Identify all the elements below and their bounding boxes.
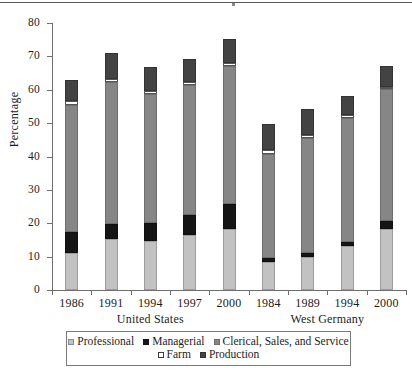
x-tick-2 [131, 290, 132, 295]
legend-swatch-clerical-icon [214, 339, 220, 345]
x-tick-9 [406, 290, 407, 295]
bar-segment-clerical-1984-5[interactable] [262, 154, 275, 257]
page-top-rule [0, 2, 412, 3]
stacked-bar-chart-figure: Percentage 01020304050607080 19861991199… [0, 0, 412, 370]
bar-segment-clerical-1994-7[interactable] [341, 118, 354, 242]
bar-segment-professional-2000-4[interactable] [223, 229, 236, 290]
bar-segment-professional-2000-8[interactable] [380, 229, 393, 290]
bar-segment-clerical-1986-0[interactable] [65, 105, 78, 232]
y-tick-label-30: 30 [18, 184, 40, 196]
legend-label-production: Production [209, 348, 259, 361]
bar-segment-professional-1991-1[interactable] [105, 239, 118, 290]
bar-segment-farm-2000-8[interactable] [380, 87, 393, 89]
bar-1991-1[interactable] [105, 23, 118, 290]
bar-segment-farm-2000-4[interactable] [223, 63, 236, 66]
legend-label-managerial: Managerial [152, 335, 204, 348]
bar-segment-clerical-1997-3[interactable] [183, 85, 196, 215]
bar-segment-managerial-1991-1[interactable] [105, 224, 118, 239]
y-tick-label-20: 20 [18, 217, 40, 229]
y-tick-label-50: 50 [18, 117, 40, 129]
bar-segment-managerial-1994-7[interactable] [341, 242, 354, 246]
x-tick-5 [249, 290, 250, 295]
legend-label-professional: Professional [77, 335, 134, 348]
bar-segment-managerial-1997-3[interactable] [183, 215, 196, 235]
legend-item-production: Production [200, 348, 259, 361]
x-axis-line [52, 290, 406, 291]
bar-segment-professional-1994-2[interactable] [144, 241, 157, 290]
bar-segment-production-1991-1[interactable] [105, 53, 118, 79]
bar-segment-managerial-1986-0[interactable] [65, 232, 78, 253]
bar-1994-2[interactable] [144, 23, 157, 290]
bar-segment-production-2000-4[interactable] [223, 39, 236, 63]
y-tick-label-70: 70 [18, 50, 40, 62]
x-tick-4 [209, 290, 210, 295]
bar-segment-production-1994-7[interactable] [341, 96, 354, 115]
bar-segment-farm-1986-0[interactable] [65, 101, 78, 105]
bar-1989-6[interactable] [301, 23, 314, 290]
x-tick-0 [52, 290, 53, 295]
y-tick-label-10: 10 [18, 251, 40, 263]
bar-segment-farm-1994-2[interactable] [144, 91, 157, 95]
y-tick-label-80: 80 [18, 17, 40, 29]
legend-item-clerical: Clerical, Sales, and Service [214, 335, 349, 348]
legend-swatch-managerial-icon [143, 339, 149, 345]
bar-segment-production-1989-6[interactable] [301, 109, 314, 135]
bar-segment-production-1997-3[interactable] [183, 59, 196, 82]
bar-segment-managerial-1994-2[interactable] [144, 223, 157, 241]
group-label-west-germany: West Germany [262, 312, 392, 327]
bar-segment-production-1986-0[interactable] [65, 80, 78, 101]
bar-segment-professional-1997-3[interactable] [183, 235, 196, 290]
legend-item-managerial: Managerial [143, 335, 204, 348]
bar-segment-clerical-2000-8[interactable] [380, 89, 393, 220]
bar-1994-7[interactable] [341, 23, 354, 290]
legend-label-farm: Farm [167, 348, 191, 361]
y-tick-label-0: 0 [18, 284, 40, 296]
group-label-united-states: United States [85, 312, 215, 327]
legend-item-professional: Professional [68, 335, 134, 348]
plot-area [52, 23, 406, 290]
bar-segment-managerial-1984-5[interactable] [262, 258, 275, 262]
page-top-rule-mark [232, 3, 235, 6]
legend-swatch-production-icon [200, 352, 206, 358]
bar-segment-production-1994-2[interactable] [144, 67, 157, 90]
bar-segment-clerical-1991-1[interactable] [105, 82, 118, 224]
bar-segment-farm-1984-5[interactable] [262, 150, 275, 154]
x-tick-7 [327, 290, 328, 295]
chart-legend: Professional Managerial Clerical, Sales,… [66, 331, 351, 366]
legend-item-farm: Farm [158, 348, 191, 361]
y-tick-label-60: 60 [18, 84, 40, 96]
y-tick-label-40: 40 [18, 151, 40, 163]
bar-segment-clerical-1994-2[interactable] [144, 94, 157, 222]
bar-segment-professional-1984-5[interactable] [262, 262, 275, 290]
legend-row-primary: Professional Managerial Clerical, Sales,… [71, 335, 346, 348]
bar-2000-4[interactable] [223, 23, 236, 290]
bar-segment-managerial-1989-6[interactable] [301, 253, 314, 257]
bar-2000-8[interactable] [380, 23, 393, 290]
bar-segment-farm-1991-1[interactable] [105, 79, 118, 83]
bar-segment-production-2000-8[interactable] [380, 66, 393, 87]
bar-segment-farm-1997-3[interactable] [183, 82, 196, 85]
x-tick-1 [91, 290, 92, 295]
bar-1997-3[interactable] [183, 23, 196, 290]
legend-swatch-professional-icon [68, 339, 74, 345]
bar-1986-0[interactable] [65, 23, 78, 290]
bar-segment-managerial-2000-8[interactable] [380, 221, 393, 230]
legend-swatch-farm-icon [158, 352, 164, 358]
bar-segment-clerical-2000-4[interactable] [223, 66, 236, 204]
legend-label-clerical: Clerical, Sales, and Service [223, 335, 349, 348]
legend-row-secondary: Farm Production [71, 348, 346, 361]
bar-segment-farm-1994-7[interactable] [341, 115, 354, 118]
x-tick-6 [288, 290, 289, 295]
bar-segment-professional-1986-0[interactable] [65, 253, 78, 290]
bar-segment-managerial-2000-4[interactable] [223, 204, 236, 229]
x-tick-3 [170, 290, 171, 295]
bar-segment-farm-1989-6[interactable] [301, 135, 314, 138]
x-tick-8 [367, 290, 368, 295]
bar-segment-professional-1994-7[interactable] [341, 246, 354, 290]
bar-segment-clerical-1989-6[interactable] [301, 138, 314, 253]
bar-segment-production-1984-5[interactable] [262, 124, 275, 150]
x-axis-label-2000-8: 2000 [358, 296, 412, 311]
bar-1984-5[interactable] [262, 23, 275, 290]
bar-segment-professional-1989-6[interactable] [301, 257, 314, 290]
